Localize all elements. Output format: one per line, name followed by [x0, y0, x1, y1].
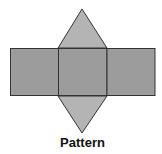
center-square	[59, 49, 108, 96]
diagram-caption: Pattern	[0, 135, 162, 150]
left-rectangle	[11, 49, 59, 96]
bottom-triangle	[58, 96, 107, 133]
pattern-net-diagram	[0, 0, 162, 154]
right-rectangle	[107, 49, 155, 96]
top-triangle	[58, 9, 107, 48]
